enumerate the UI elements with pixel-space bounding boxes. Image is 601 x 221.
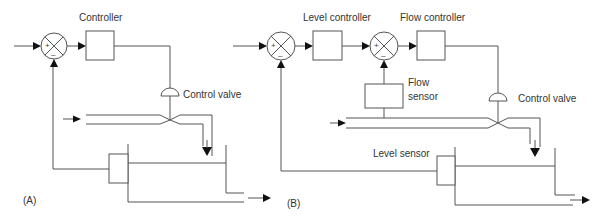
arrow-icon — [33, 42, 41, 50]
valve-actuator-icon — [489, 93, 507, 101]
arrow-icon — [338, 120, 346, 127]
control-diagram: + – Controller Control valve — [0, 0, 601, 221]
flow-sensor-box — [365, 84, 403, 108]
inlet-pipe-b — [346, 118, 540, 147]
panel-b-tag: (B) — [287, 198, 300, 209]
arrow-icon — [50, 59, 58, 67]
control-valve-label-a: Control valve — [183, 89, 242, 100]
inlet-pipe-a — [86, 115, 212, 156]
plus-sign: + — [374, 41, 379, 50]
flow-sensor-label-1: Flow — [408, 77, 430, 88]
controller-box-a — [86, 31, 114, 60]
minus-sign: – — [381, 51, 386, 60]
summing-junction-b1: + – — [267, 32, 295, 60]
arrow-icon — [73, 116, 81, 123]
arrow-icon — [78, 42, 86, 50]
level-sensor-box-a — [109, 154, 128, 183]
panel-a-tag: (A) — [23, 195, 36, 206]
minus-sign: – — [278, 51, 283, 60]
arrow-icon — [202, 147, 212, 156]
flow-controller-label: Flow controller — [400, 12, 466, 23]
level-sensor-box-b — [437, 156, 455, 185]
tank-b — [455, 147, 575, 205]
minus-sign: – — [51, 50, 56, 59]
summing-junction-b2: + – — [370, 32, 398, 60]
arrow-icon — [582, 196, 590, 204]
arrow-icon — [362, 42, 370, 50]
arrow-icon — [259, 42, 267, 50]
arrow-icon — [409, 42, 417, 50]
panel-b: + – Level controller + – Flow controller… — [233, 12, 590, 209]
arrow-icon — [277, 60, 285, 68]
arrow-icon — [305, 42, 313, 50]
flow-sensor-label-2: sensor — [408, 91, 439, 102]
summing-junction-a: + – — [41, 33, 67, 59]
plus-sign: + — [45, 41, 50, 50]
panel-a: + – Controller Control valve — [14, 12, 271, 206]
plus-sign: + — [271, 41, 276, 50]
flow-controller-box — [417, 31, 445, 60]
level-controller-box — [313, 31, 342, 60]
control-valve-label-b: Control valve — [518, 93, 577, 104]
arrow-icon — [263, 194, 271, 202]
arrow-icon — [530, 148, 540, 157]
valve-actuator-icon — [161, 88, 179, 96]
controller-label-a: Controller — [79, 12, 123, 23]
tank-a — [128, 144, 244, 202]
level-controller-label: Level controller — [303, 12, 371, 23]
arrow-icon — [380, 60, 388, 68]
level-sensor-label: Level sensor — [373, 148, 430, 159]
